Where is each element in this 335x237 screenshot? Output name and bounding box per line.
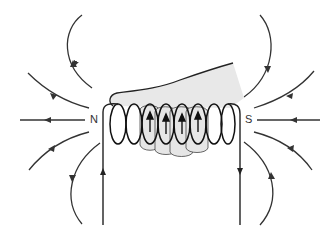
hand-thumb	[110, 63, 244, 108]
field-line-left-top-arc	[67, 15, 92, 88]
right-wire	[228, 104, 240, 225]
arrow-icon	[69, 175, 76, 182]
arrow-down-icon	[237, 168, 243, 175]
north-pole-label: N	[90, 114, 98, 125]
right-arrowheads	[264, 66, 297, 179]
solenoid-field-diagram	[0, 0, 335, 237]
field-line-right-bottom-arc	[244, 142, 273, 225]
left-arrowheads	[44, 60, 77, 182]
wire-arrows	[100, 168, 243, 175]
field-line-right-top-arc	[244, 15, 271, 97]
field-line-right-lower	[254, 132, 312, 170]
arrow-icon	[290, 117, 297, 123]
coil-turn	[110, 104, 126, 144]
left-field-lines	[20, 15, 100, 224]
field-line-left-upper	[28, 73, 89, 108]
arrow-icon	[44, 117, 51, 123]
coil-turn	[221, 104, 235, 144]
field-line-left-bottom-arc	[71, 143, 100, 224]
right-field-lines	[244, 15, 320, 225]
south-pole-label: S	[245, 114, 252, 125]
arrow-up-icon	[100, 168, 106, 175]
